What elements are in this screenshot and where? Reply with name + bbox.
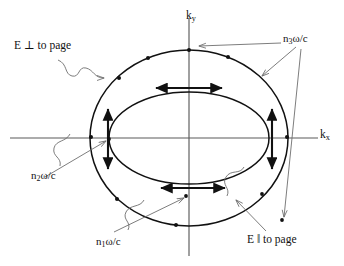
leader-n3-top — [199, 43, 281, 46]
curve-dot — [280, 218, 284, 222]
leader-e-par-line — [236, 200, 266, 231]
leader-n3-lower — [284, 49, 301, 217]
label-e-perpendicular: E ⊥ to page — [14, 40, 71, 52]
curve-dot — [115, 197, 119, 201]
index-surface-figure: E ⊥ to page E ‖ to page n3ω/c n2ω/c n1ω/… — [0, 0, 344, 266]
leader-n3-flank — [262, 47, 296, 76]
x-axis-label: kx — [320, 129, 330, 142]
curve-dot — [89, 135, 93, 139]
curve-dot — [184, 194, 188, 198]
y-axis-label-subscript: y — [192, 14, 196, 23]
curve-dot — [187, 48, 191, 52]
x-axis-label-subscript: x — [326, 133, 330, 142]
leader-n2-squiggle — [54, 134, 70, 166]
curve-dot — [285, 135, 289, 139]
label-n3-suffix: ω/c — [292, 32, 307, 44]
leader-n1-line — [114, 198, 184, 232]
leader-e-perp — [58, 60, 104, 78]
label-n2-omega-over-c: n2ω/c — [31, 170, 56, 183]
label-n2-suffix: ω/c — [40, 169, 55, 181]
label-n3-omega-over-c: n3ω/c — [283, 33, 308, 46]
curve-dot — [146, 56, 150, 60]
y-axis-label: ky — [186, 10, 196, 23]
curve-dot — [260, 192, 264, 196]
curve-dot — [117, 76, 121, 80]
leader-e-par-squiggle — [225, 167, 244, 196]
label-n1-suffix: ω/c — [105, 235, 120, 247]
curve-dot — [107, 137, 111, 141]
curve-dot — [226, 55, 230, 59]
curve-dot — [174, 223, 178, 227]
label-n1-omega-over-c: n1ω/c — [96, 236, 121, 249]
label-e-parallel: E ‖ to page — [247, 234, 297, 246]
